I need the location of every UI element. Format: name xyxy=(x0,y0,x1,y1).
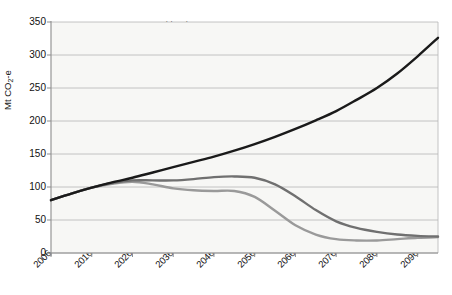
emissions-line-chart: Mt CO2-e 050100150200250300350 200620162… xyxy=(0,0,452,295)
plot-background xyxy=(51,22,438,253)
plot-area xyxy=(0,0,452,295)
